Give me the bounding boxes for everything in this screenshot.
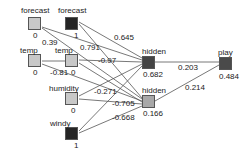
node-label: humidity [49, 84, 79, 93]
edge-weight-label: -0.668 [112, 113, 135, 122]
node-value: 0 [71, 106, 75, 115]
node-label: windy [50, 119, 70, 128]
node-label: play [218, 48, 233, 57]
node-value: 0.166 [143, 109, 163, 118]
node-label: hidden [142, 86, 166, 95]
edge-weight-label: 0.645 [114, 33, 134, 42]
input-node-forecast[interactable] [65, 17, 78, 30]
node-label: forecast [21, 6, 49, 15]
input-node-temp[interactable] [65, 54, 78, 67]
edge-weight-label: -0.97 [98, 56, 116, 65]
node-value: 1 [74, 31, 78, 40]
node-value: 0.682 [143, 70, 163, 79]
node-label: temp [20, 46, 38, 55]
input-node-windy[interactable] [65, 127, 78, 140]
edge-weight-label: -0.705 [112, 99, 135, 108]
edge-weight-label: -0.81 [50, 68, 68, 77]
edge-weight-label: -0.271 [94, 87, 117, 96]
edge-weight-label: 0.214 [185, 83, 205, 92]
neural-network-diagram: forecast 0 forecast 1 temp 0 temp 0 humi… [0, 0, 250, 155]
hidden-node[interactable] [142, 95, 155, 108]
node-label: forecast [58, 6, 86, 15]
node-label: hidden [142, 47, 166, 56]
input-node-forecast[interactable] [28, 17, 41, 30]
output-node-play[interactable] [219, 57, 232, 70]
input-node-temp[interactable] [28, 54, 41, 67]
edge-weight-label: 0.203 [178, 63, 198, 72]
input-node-humidity[interactable] [65, 92, 78, 105]
node-value: 1 [74, 141, 78, 150]
edge-weight-label: 0.791 [80, 43, 100, 52]
node-value: 0 [33, 68, 37, 77]
hidden-node[interactable] [142, 56, 155, 69]
edge-weight-label: 0.39 [42, 38, 58, 47]
node-value: 0 [33, 31, 37, 40]
node-label: temp [55, 46, 73, 55]
node-value: 0 [71, 68, 75, 77]
node-value: 0.484 [219, 72, 239, 81]
